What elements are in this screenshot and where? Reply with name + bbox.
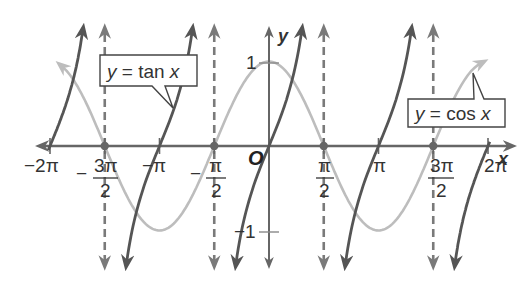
x-label-neg-3pi-2: − 3π 2 (76, 155, 118, 201)
cos-callout: y = cos x (408, 73, 505, 127)
tan-branch (48, 31, 82, 150)
y-label-1: 1 (246, 52, 257, 73)
x-label-2pi: 2π (484, 155, 508, 176)
y-axis-label: y (277, 26, 289, 46)
x-label-neg-pi: −π (142, 155, 166, 176)
intersection-dot (320, 142, 328, 150)
svg-text:−: − (76, 163, 87, 184)
svg-text:y = tan x: y = tan x (105, 61, 181, 82)
svg-text:y = cos x: y = cos x (413, 103, 492, 124)
x-label-pi: π (373, 155, 386, 176)
svg-text:2: 2 (100, 180, 111, 201)
intersection-dot (101, 142, 109, 150)
x-label-3pi-2: 3π 2 (428, 155, 454, 201)
origin-label: O (248, 147, 264, 169)
intersection-dot (429, 142, 437, 150)
svg-text:2: 2 (436, 180, 447, 201)
svg-text:−: − (190, 163, 201, 184)
svg-text:2: 2 (319, 180, 330, 201)
x-label-neg-2pi: −2π (24, 155, 59, 176)
trig-graph: y x O 1 −1 −2π − 3π 2 −π − π 2 π 2 π 3π … (0, 0, 527, 284)
y-label-neg-1: −1 (234, 221, 256, 242)
svg-text:3π: 3π (430, 155, 454, 176)
tan-callout: y = tan x (100, 55, 197, 108)
svg-text:π: π (209, 155, 222, 176)
svg-text:3π: 3π (94, 155, 118, 176)
svg-text:π: π (318, 155, 331, 176)
intersection-dot (210, 142, 218, 150)
svg-text:2: 2 (211, 180, 222, 201)
